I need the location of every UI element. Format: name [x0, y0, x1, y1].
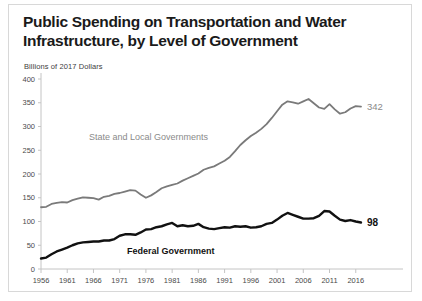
x-axis-tick-label: 1966	[85, 276, 102, 285]
x-axis-tick-label: 1971	[111, 276, 128, 285]
x-axis-tick-label: 2016	[347, 276, 364, 285]
x-axis-tick-label: 1961	[59, 276, 76, 285]
y-axis-tick-label: 150	[22, 193, 35, 202]
x-axis-tick-label: 1991	[216, 276, 233, 285]
y-axis-tick-label: 250	[22, 146, 35, 155]
x-axis-group: 1956196119661971197619811986199119962001…	[33, 269, 403, 285]
x-axis-tick-label: 2011	[321, 276, 337, 285]
x-axis-tick-label: 1986	[190, 276, 207, 285]
x-axis-tick-label: 2006	[295, 276, 312, 285]
end-value-label-federal: 98	[367, 217, 379, 228]
y-axis-tick-label: 350	[22, 98, 35, 107]
end-value-label-state-local: 342	[367, 101, 383, 112]
chart-card: Public Spending on Transportation and Wa…	[8, 4, 412, 292]
x-axis-tick-label: 1996	[242, 276, 259, 285]
x-axis-tick-label: 1956	[33, 276, 50, 285]
x-axis-tick-label: 1981	[164, 276, 181, 285]
y-axis-group: 050100150200250300350400	[22, 73, 41, 274]
chart-plot: 050100150200250300350400 195619611966197…	[9, 5, 413, 293]
y-axis-tick-label: 50	[27, 241, 35, 250]
y-axis-tick-label: 200	[22, 170, 35, 179]
y-axis-tick-label: 100	[22, 217, 35, 226]
annotation-group: 34298State and Local GovernmentsFederal …	[89, 101, 383, 256]
y-axis-tick-label: 300	[22, 122, 35, 131]
y-axis-tick-label: 0	[31, 265, 35, 274]
x-axis-tick-label: 2001	[269, 276, 286, 285]
series-line-state-local	[41, 99, 361, 207]
y-axis-tick-label: 400	[22, 75, 35, 84]
series-group	[41, 99, 361, 259]
x-axis-tick-label: 1976	[138, 276, 155, 285]
series-annotation-state-local: State and Local Governments	[89, 132, 209, 142]
series-annotation-federal: Federal Government	[127, 246, 215, 256]
